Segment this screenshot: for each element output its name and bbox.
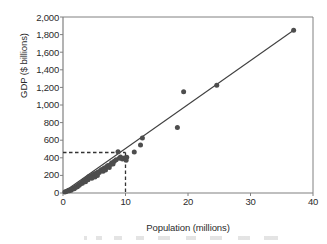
page-footer-artifact (78, 236, 318, 240)
chart-figure: GDP ($ billions) Population (millions) 2… (0, 0, 327, 244)
plot-area (0, 0, 327, 244)
trend-line (63, 30, 294, 192)
